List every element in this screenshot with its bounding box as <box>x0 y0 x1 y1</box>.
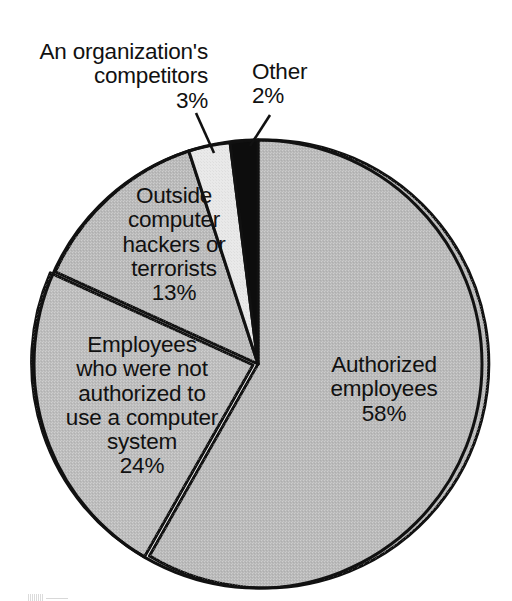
slice-label-other: Other 2% <box>252 60 382 109</box>
slice-label-unauthorized-employees: Employees who were not authorized to use… <box>32 333 252 479</box>
pie-chart: An organization's competitors 3% Other 2… <box>0 0 512 601</box>
slice-label-authorized-employees: Authorized employees 58% <box>300 353 468 426</box>
slice-label-competitors: An organization's competitors 3% <box>8 40 208 113</box>
slice-label-outside-hackers: Outside computer hackers or terrorists 1… <box>90 184 258 305</box>
scan-artifact-line <box>46 598 68 599</box>
scan-artifact <box>28 594 44 601</box>
